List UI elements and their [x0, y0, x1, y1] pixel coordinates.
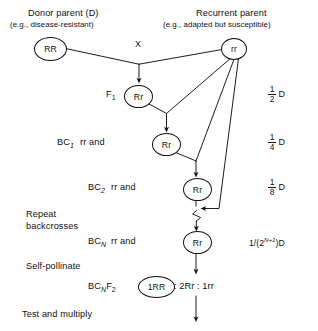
fraction-eighth-numerator: 1: [270, 178, 275, 187]
bc1-subscript: 1: [70, 142, 74, 149]
fraction-eighth-unit: D: [279, 182, 286, 192]
fraction-half-denominator: 2: [270, 95, 275, 104]
row-label-bc1: BC1: [57, 137, 74, 150]
fraction-half-D: 1 2 D: [268, 85, 285, 104]
bc2-subscript: 2: [101, 187, 105, 194]
node-bcn-Rr: Rr: [183, 231, 212, 254]
fraction-eighth-stack: 1 8: [268, 178, 276, 197]
bcn-prefix: BC: [88, 236, 101, 246]
bc1-prefix: BC: [57, 137, 70, 147]
bc2-prefix: BC: [88, 182, 101, 192]
node-f1-Rr: Rr: [124, 85, 153, 108]
step-repeat-line1: Repeat: [26, 209, 56, 220]
node-bc2-Rr: Rr: [183, 178, 212, 201]
donor-parent-title: Donor parent (D): [28, 8, 99, 19]
fraction-eighth-denominator: 8: [270, 188, 275, 197]
diagram-canvas: Donor parent (D) (e.g., disease-resistan…: [0, 0, 318, 331]
formula-exponent: N+1: [264, 236, 276, 243]
bcnf2-prefix: BC: [88, 281, 101, 291]
recurrent-parent-subtitle: (e.g., adapted but susceptible): [163, 20, 271, 29]
formula-close: )D: [276, 238, 285, 248]
step-test-and-multiply: Test and multiply: [22, 309, 92, 320]
donor-parent-subtitle: (e.g., disease-resistant): [10, 20, 94, 29]
fraction-quarter-numerator: 1: [270, 133, 275, 142]
step-self-pollinate: Self-pollinate: [26, 261, 81, 272]
bcn-subscript: N: [101, 241, 106, 248]
fraction-quarter-stack: 1 4: [268, 133, 276, 152]
node-recurrent-rr: rr: [221, 38, 247, 60]
fraction-eighth-D: 1 8 D: [268, 178, 285, 197]
general-fraction-formula: 1/(2N+1)D: [249, 236, 285, 248]
step-repeat-line2: backcrosses: [26, 221, 78, 232]
fraction-quarter-D: 1 4 D: [268, 133, 285, 152]
bc2-mid-text: rr and: [111, 182, 136, 193]
f1-subscript: 1: [112, 94, 116, 101]
formula-lead: 1/(2: [249, 238, 264, 248]
fraction-half-unit: D: [279, 89, 286, 99]
fraction-quarter-unit: D: [279, 137, 286, 147]
node-bcnf2-1RR: 1RR: [138, 276, 175, 298]
bcnf2-subscript2: 2: [112, 286, 116, 293]
row-label-bc2: BC2: [88, 182, 105, 195]
fraction-quarter-denominator: 4: [270, 143, 275, 152]
row-label-bcn: BCN: [88, 236, 106, 249]
row-label-f1: F1: [106, 89, 116, 102]
bc1-mid-text: rr and: [80, 137, 105, 148]
recurrent-parent-title: Recurrent parent: [196, 8, 267, 19]
row-label-bcnf2: BCNF2: [88, 281, 116, 294]
cross-symbol: X: [135, 39, 141, 49]
bcnf2-ratio-text: : 2Rr : 1rr: [174, 281, 214, 292]
fraction-half-stack: 1 2: [268, 85, 276, 104]
node-donor-RR: RR: [34, 37, 67, 61]
bcn-mid-text: rr and: [111, 236, 136, 247]
fraction-half-numerator: 1: [270, 85, 275, 94]
node-bc1-Rr: Rr: [152, 133, 181, 156]
